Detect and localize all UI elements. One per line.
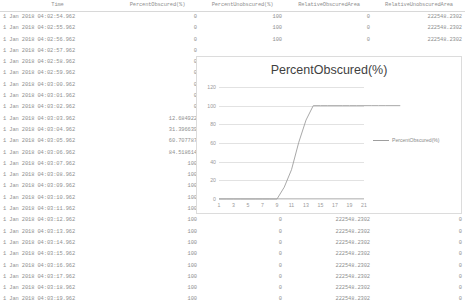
cell-percent-obscured: 100: [115, 193, 200, 204]
cell-relative-obscured-area: 0: [285, 35, 373, 46]
cell-percent-obscured: 100: [115, 294, 200, 305]
cell-percent-obscured: 0: [115, 46, 200, 57]
x-axis-tick-label: 5: [247, 202, 250, 208]
table-row[interactable]: 1 Jan 2018 04:03:16.9621000222548.23020: [0, 261, 465, 272]
x-axis-tick-label: 3: [232, 202, 235, 208]
cell-time: 1 Jan 2018 04:03:01.962: [0, 91, 115, 102]
cell-relative-unobscured-area: 0: [373, 283, 465, 294]
cell-percent-obscured: 0: [115, 57, 200, 68]
table-row[interactable]: 1 Jan 2018 04:03:13.9621000222548.23020: [0, 227, 465, 238]
cell-relative-unobscured-area: 0: [373, 261, 465, 272]
cell-percent-obscured: 0: [115, 35, 200, 46]
x-axis-tick-label: 13: [303, 202, 309, 208]
cell-relative-obscured-area: 222548.2302: [285, 249, 373, 260]
y-axis-tick-label: 20: [210, 177, 216, 183]
chart-title: PercentObscured(%): [197, 63, 461, 77]
cell-time: 1 Jan 2018 04:03:07.962: [0, 159, 115, 170]
series-percent-obscured: [219, 106, 400, 199]
cell-percent-obscured: 0: [115, 91, 200, 102]
cell-percent-obscured: 100: [115, 170, 200, 181]
cell-percent-unobscured: 0: [200, 283, 285, 294]
column-header-percent-obscured[interactable]: PercentObscured(%): [115, 0, 200, 12]
cell-time: 1 Jan 2018 04:03:05.962: [0, 136, 115, 147]
cell-percent-obscured: 100: [115, 159, 200, 170]
cell-relative-unobscured-area: 0: [373, 227, 465, 238]
cell-time: 1 Jan 2018 04:03:17.962: [0, 272, 115, 283]
cell-time: 1 Jan 2018 04:02:58.962: [0, 57, 115, 68]
table-header: Time PercentObscured(%) PercentUnobscure…: [0, 0, 465, 12]
cell-time: 1 Jan 2018 04:03:14.962: [0, 238, 115, 249]
cell-relative-unobscured-area: 222548.2302: [373, 23, 465, 34]
cell-percent-obscured: 100: [115, 204, 200, 215]
cell-percent-obscured: 31.396639: [115, 125, 200, 136]
cell-relative-obscured-area: 222548.2302: [285, 227, 373, 238]
table-row[interactable]: 1 Jan 2018 04:03:17.9621000222548.23020: [0, 272, 465, 283]
cell-percent-obscured: 0: [115, 12, 200, 24]
table-row[interactable]: 1 Jan 2018 04:03:15.9621000222548.23020: [0, 249, 465, 260]
table-row[interactable]: 1 Jan 2018 04:02:55.96201000222548.2302: [0, 23, 465, 34]
y-axis-tick-label: 40: [210, 159, 216, 165]
cell-percent-unobscured: 0: [200, 227, 285, 238]
cell-time: 1 Jan 2018 04:03:11.962: [0, 204, 115, 215]
cell-relative-unobscured-area: 0: [373, 215, 465, 226]
cell-relative-unobscured-area: 0: [373, 272, 465, 283]
cell-time: 1 Jan 2018 04:03:08.962: [0, 170, 115, 181]
cell-percent-obscured: 100: [115, 238, 200, 249]
cell-relative-obscured-area: 222548.2302: [285, 294, 373, 305]
cell-time: 1 Jan 2018 04:03:15.962: [0, 249, 115, 260]
cell-percent-obscured: 100: [115, 227, 200, 238]
cell-time: 1 Jan 2018 04:03:03.962: [0, 114, 115, 125]
cell-time: 1 Jan 2018 04:02:56.962: [0, 35, 115, 46]
cell-time: 1 Jan 2018 04:03:06.962: [0, 148, 115, 159]
plot-area: 020406080100120 13579111315171921: [219, 87, 364, 199]
cell-percent-obscured: 100: [115, 261, 200, 272]
table-row[interactable]: 1 Jan 2018 04:02:54.96201000222548.2302: [0, 12, 465, 24]
column-header-relative-unobscured-area[interactable]: RelativeUnobscuredArea: [373, 0, 465, 12]
y-axis-tick-label: 0: [213, 196, 216, 202]
cell-percent-unobscured: 0: [200, 261, 285, 272]
table-row[interactable]: 1 Jan 2018 04:03:19.9621000222548.23020: [0, 294, 465, 305]
cell-percent-obscured: 84.518614: [115, 148, 200, 159]
table-row[interactable]: 1 Jan 2018 04:03:18.9621000222548.23020: [0, 283, 465, 294]
column-header-relative-obscured-area[interactable]: RelativeObscuredArea: [285, 0, 373, 12]
cell-percent-unobscured: 0: [200, 215, 285, 226]
cell-relative-obscured-area: 222548.2302: [285, 238, 373, 249]
table-row[interactable]: 1 Jan 2018 04:03:12.9621000222548.23020: [0, 215, 465, 226]
table-row[interactable]: 1 Jan 2018 04:03:14.9621000222548.23020: [0, 238, 465, 249]
x-axis-tick-label: 17: [332, 202, 338, 208]
cell-time: 1 Jan 2018 04:03:00.962: [0, 80, 115, 91]
cell-percent-unobscured: 0: [200, 249, 285, 260]
cell-percent-obscured: 0: [115, 80, 200, 91]
cell-time: 1 Jan 2018 04:03:18.962: [0, 283, 115, 294]
cell-relative-obscured-area: 222548.2302: [285, 261, 373, 272]
table-row[interactable]: 1 Jan 2018 04:02:56.96201000222548.2302: [0, 35, 465, 46]
cell-time: 1 Jan 2018 04:03:13.962: [0, 227, 115, 238]
cell-percent-unobscured: 100: [200, 12, 285, 24]
cell-relative-obscured-area: 0: [285, 23, 373, 34]
legend-label-percent-obscured: PercentObscured(%): [392, 137, 440, 143]
cell-time: 1 Jan 2018 04:03:12.962: [0, 215, 115, 226]
cell-percent-obscured: 0: [115, 68, 200, 79]
chart-legend: PercentObscured(%): [373, 137, 440, 143]
cell-relative-unobscured-area: 0: [373, 249, 465, 260]
cell-time: 1 Jan 2018 04:02:59.962: [0, 68, 115, 79]
cell-percent-obscured: 0: [115, 102, 200, 113]
cell-time: 1 Jan 2018 04:02:54.962: [0, 12, 115, 24]
column-header-time[interactable]: Time: [0, 0, 115, 12]
column-header-percent-unobscured[interactable]: PercentUnobscured(%): [200, 0, 285, 12]
x-axis-tick-label: 15: [318, 202, 324, 208]
table-header-row: Time PercentObscured(%) PercentUnobscure…: [0, 0, 465, 12]
series-line-chart: [219, 87, 364, 199]
cell-relative-obscured-area: 222548.2302: [285, 272, 373, 283]
cell-percent-obscured: 100: [115, 272, 200, 283]
cell-relative-unobscured-area: 222548.2302: [373, 12, 465, 24]
cell-percent-unobscured: 0: [200, 238, 285, 249]
y-axis-tick-label: 120: [207, 84, 216, 90]
cell-percent-obscured: 12.684922: [115, 114, 200, 125]
x-axis-tick-label: 19: [347, 202, 353, 208]
cell-time: 1 Jan 2018 04:03:10.962: [0, 193, 115, 204]
x-axis-tick-label: 9: [276, 202, 279, 208]
cell-percent-obscured: 100: [115, 181, 200, 192]
x-axis-tick-label: 7: [261, 202, 264, 208]
cell-percent-obscured: 0: [115, 23, 200, 34]
